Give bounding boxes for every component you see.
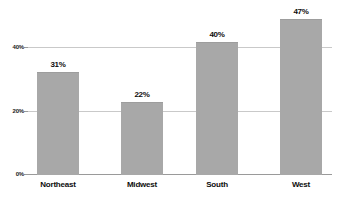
bar-value-west: 47% [280,7,322,16]
bar-value-south: 40% [196,30,238,39]
x-axis-label-south: South [196,180,238,189]
bar-value-northeast: 31% [37,60,79,69]
bar-group-south: 40% [196,9,238,175]
x-axis-label-midwest: Midwest [121,180,163,189]
bar-group-midwest: 22% [121,9,163,175]
bar-northeast[interactable] [37,72,79,175]
x-axis-labels: Northeast Midwest South West [28,180,332,196]
bar-chart: 40% 20% 0% 31% 22% 40% [0,0,342,204]
plot-area: 40% 20% 0% 31% 22% 40% [28,8,332,175]
ytick-label-20: 20% [13,108,24,114]
bar-midwest[interactable] [121,102,163,175]
ytick-label-40: 40% [13,44,24,50]
bar-value-midwest: 22% [121,90,163,99]
bars-layer: 31% 22% 40% 47% [28,8,332,175]
bar-group-west: 47% [280,9,322,175]
bar-west[interactable] [280,19,322,175]
x-axis-label-west: West [280,180,322,189]
x-axis-label-northeast: Northeast [37,180,79,189]
bar-south[interactable] [196,42,238,175]
ytick-label-0: 0% [16,171,24,177]
bar-group-northeast: 31% [37,9,79,175]
